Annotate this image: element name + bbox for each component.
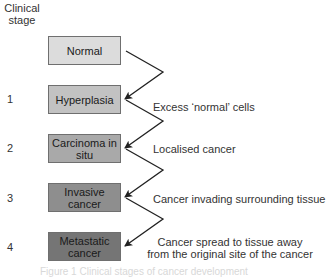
- arrow-invasive-to-metastatic: [125, 198, 163, 246]
- arrow-normal-to-hyperplasia: [125, 51, 163, 99]
- arrow-hyperplasia-to-carcinoma: [125, 100, 163, 148]
- arrow-carcinoma-to-invasive: [125, 149, 163, 197]
- figure-caption: Figure 1 Clinical stages of cancer devel…: [40, 266, 248, 277]
